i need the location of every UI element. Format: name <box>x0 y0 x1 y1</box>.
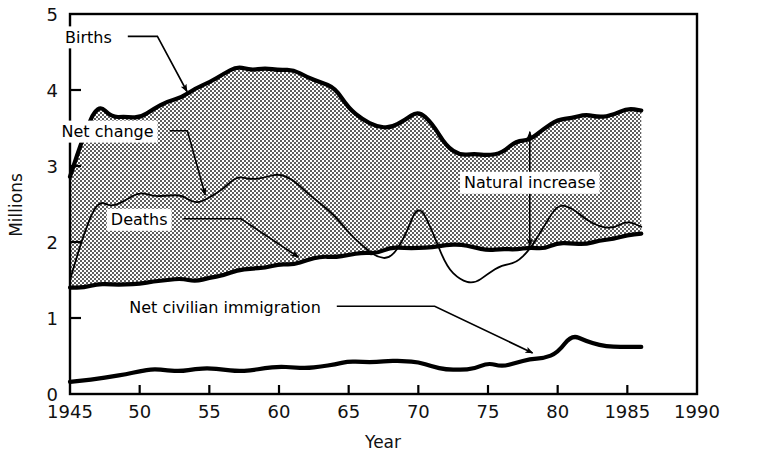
y-tick-label: 1 <box>47 308 58 329</box>
y-axis-title: Millions <box>6 173 26 237</box>
x-tick-label: 60 <box>268 401 291 422</box>
annotation-label: Natural increase <box>464 173 596 192</box>
x-tick-label: 1985 <box>604 401 650 422</box>
y-tick-label: 3 <box>47 156 58 177</box>
y-tick-label: 5 <box>47 4 58 25</box>
x-tick-label: 75 <box>477 401 500 422</box>
annotation-label: Deaths <box>111 210 168 229</box>
x-tick-label: 70 <box>407 401 430 422</box>
y-tick-label: 2 <box>47 232 58 253</box>
demographics-area-chart: 19455055606570758019851990 012345 Births… <box>0 0 763 453</box>
y-tick-label: 4 <box>47 80 58 101</box>
annotation-label: Net civilian immigration <box>129 298 321 317</box>
y-tick-label: 0 <box>47 384 58 405</box>
x-tick-label: 65 <box>337 401 360 422</box>
x-axis-title: Year <box>364 432 401 452</box>
annotation-births: Births <box>61 26 187 91</box>
net-civilian-immigration-line <box>70 337 641 382</box>
annotation-label: Births <box>65 28 112 47</box>
x-tick-label: 1990 <box>674 401 720 422</box>
annotation-net-civilian-immigration: Net civilian immigration <box>125 296 532 353</box>
chart-figure: 19455055606570758019851990 012345 Births… <box>0 0 763 453</box>
x-axis-ticks: 19455055606570758019851990 <box>47 385 720 422</box>
x-tick-label: 55 <box>198 401 221 422</box>
x-tick-label: 50 <box>128 401 151 422</box>
x-tick-label: 80 <box>546 401 569 422</box>
annotation-label: Net change <box>62 122 154 141</box>
